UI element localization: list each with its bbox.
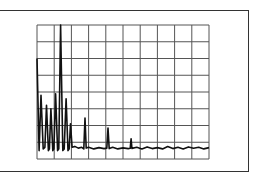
- spectrum-display: [0, 0, 260, 180]
